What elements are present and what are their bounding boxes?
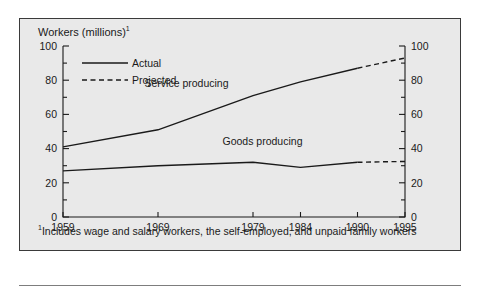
axis-frame xyxy=(63,46,405,217)
y-tick-label-left: 40 xyxy=(45,142,57,154)
footnote-text: Includes wage and salary workers, the se… xyxy=(42,225,417,237)
chart-figure: Workers (millions)1 00202040406060808010… xyxy=(19,18,461,251)
y-tick-label-left: 80 xyxy=(45,74,57,86)
y-tick-label-left: 60 xyxy=(45,108,57,120)
footnote: 1Includes wage and salary workers, the s… xyxy=(38,224,417,237)
series-line-projected xyxy=(358,58,406,68)
y-tick-label-right: 60 xyxy=(411,108,423,120)
y-tick-label-left: 20 xyxy=(45,177,57,189)
y-tick-label-right: 20 xyxy=(411,177,423,189)
line-chart: 0020204040606080801001001959196919791984… xyxy=(20,19,462,252)
series-line-projected xyxy=(358,161,406,162)
y-tick-label-left: 100 xyxy=(39,40,57,52)
y-tick-label-right: 40 xyxy=(411,142,423,154)
series-line-actual xyxy=(63,162,358,171)
bottom-divider xyxy=(19,285,461,286)
y-tick-label-right: 80 xyxy=(411,74,423,86)
series-annotation: Goods producing xyxy=(223,135,303,147)
legend-label: Projected xyxy=(132,74,177,86)
y-tick-label-right: 100 xyxy=(411,40,429,52)
legend-label: Actual xyxy=(132,57,161,69)
